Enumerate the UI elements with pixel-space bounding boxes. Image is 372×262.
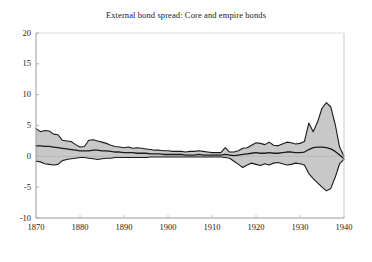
chart-page: External bond spread: Core and empire bo… bbox=[0, 0, 372, 262]
x-axis-tick-label: 1940 bbox=[324, 222, 364, 232]
y-axis-tick-label: -5 bbox=[3, 182, 31, 192]
x-axis-tick-label: 1900 bbox=[148, 222, 188, 232]
x-axis-tick-label: 1930 bbox=[280, 222, 320, 232]
y-axis-tick-label: 10 bbox=[3, 89, 31, 99]
y-axis-tick-label: 20 bbox=[3, 28, 31, 38]
y-axis-tick-label: 15 bbox=[3, 58, 31, 68]
x-axis-tick-label: 1910 bbox=[192, 222, 232, 232]
x-axis-tick-label: 1890 bbox=[104, 222, 144, 232]
x-axis-tick-label: 1880 bbox=[60, 222, 100, 232]
x-axis-tick-label: 1920 bbox=[236, 222, 276, 232]
x-axis-tick-label: 1870 bbox=[16, 222, 56, 232]
y-axis-tick-label: 0 bbox=[3, 151, 31, 161]
y-axis-tick-label: 5 bbox=[3, 120, 31, 130]
y-axis-tick-label: -10 bbox=[3, 213, 31, 223]
